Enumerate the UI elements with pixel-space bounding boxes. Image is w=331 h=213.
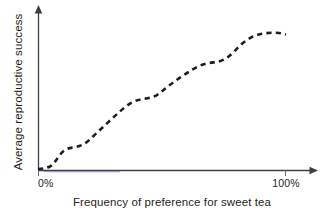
- chart-figure: 0% 100% Frequency of preference for swee…: [0, 0, 331, 213]
- data-series-line: [38, 33, 286, 169]
- y-axis-arrow-icon: [35, 5, 43, 14]
- y-axis-title: Average reproductive success: [12, 14, 24, 171]
- x-tick-label-max: 100%: [272, 177, 299, 189]
- x-axis-arrow-icon: [310, 167, 319, 174]
- x-axis-title: Frequency of preference for sweet tea: [73, 196, 272, 208]
- chart-canvas: 0% 100% Frequency of preference for swee…: [0, 0, 331, 213]
- x-tick-label-min: 0%: [38, 177, 53, 189]
